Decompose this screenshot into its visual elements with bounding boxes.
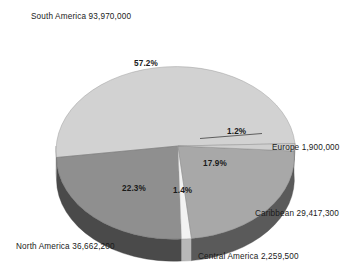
slice-label-south-america: South America 93,970,000: [31, 12, 131, 22]
slice-north-america: [57, 146, 182, 239]
slice-south-america: [56, 67, 295, 158]
slice-percent-south-america: 57.2%: [134, 59, 158, 69]
slice-label-north-america: North America 36,662,200: [16, 242, 115, 252]
pie-chart-figure: South America 93,970,000 Europe 1,900,00…: [0, 0, 357, 271]
slice-label-caribbean: Caribbean 29,417,300: [255, 209, 339, 219]
slice-side-central-america: [182, 239, 192, 261]
slice-percent-caribbean: 17.9%: [203, 159, 227, 169]
slice-percent-central-america: 1.4%: [173, 186, 192, 196]
slice-label-central-america: Central America 2,259,500: [198, 252, 299, 262]
slice-caribbean: [178, 146, 294, 239]
slice-label-europe: Europe 1,900,000: [272, 143, 340, 153]
slice-percent-europe: 1.2%: [227, 127, 246, 137]
slice-percent-north-america: 22.3%: [122, 184, 146, 194]
pie-chart-graphic: [0, 0, 357, 271]
